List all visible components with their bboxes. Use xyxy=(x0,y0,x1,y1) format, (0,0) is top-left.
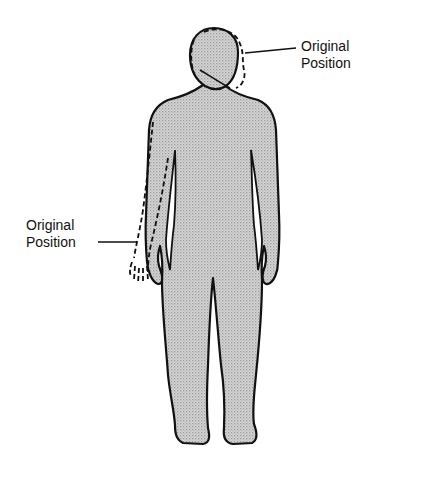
label-line: Original xyxy=(26,217,76,234)
head xyxy=(190,28,238,89)
arm-original-position-label: Original Position xyxy=(26,217,76,251)
head-leader-line xyxy=(245,48,296,53)
label-line: Position xyxy=(301,55,351,72)
head-original-position-label: Original Position xyxy=(301,38,351,72)
label-line: Position xyxy=(26,234,76,251)
label-line: Original xyxy=(301,38,351,55)
